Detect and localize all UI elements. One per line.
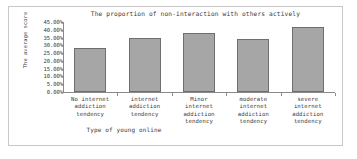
y-axis-tick-labels: 45.00%40.00%35.00%30.00%25.00%20.00%15.0… [31, 19, 63, 89]
x-axis-category-line: Minor [172, 96, 226, 103]
y-axis-tick-label: 10.00% [31, 73, 63, 79]
x-axis-category-line: moderate [226, 96, 280, 103]
x-axis-tick-mark [335, 93, 336, 96]
y-axis-title: The average score [22, 2, 28, 78]
bar [183, 33, 215, 92]
y-axis-tick-mark [61, 38, 64, 39]
x-axis-category-line: addiction [281, 111, 335, 118]
bar [237, 39, 269, 92]
x-axis-category-line: tendency [281, 118, 335, 125]
x-axis-line [63, 92, 335, 93]
chart-frame: The proportion of non-interaction with o… [8, 6, 343, 146]
x-axis-category-line: severe [281, 96, 335, 103]
x-axis-category-label: Minorinternetaddictiontendency [172, 96, 226, 126]
y-axis-line [63, 22, 64, 93]
x-axis-category-line: addiction [117, 103, 171, 110]
x-axis-category-labels: No internetaddictiontendencyinternetaddi… [63, 96, 335, 140]
y-axis-tick-label: 5.00% [31, 81, 63, 87]
y-axis-tick-label: 35.00% [31, 35, 63, 41]
x-axis-category-line: tendency [63, 111, 117, 118]
x-axis-category-line: tendency [172, 118, 226, 125]
x-axis-category-label: No internetaddictiontendency [63, 96, 117, 118]
plot-area [63, 22, 335, 93]
bar [292, 27, 324, 92]
x-axis-category-line: tendency [117, 111, 171, 118]
x-axis-category-label: moderateinternetaddictiontendency [226, 96, 280, 126]
y-axis-tick-label: 0.00% [31, 89, 63, 95]
x-axis-category-label: internetaddictiontendency [117, 96, 171, 118]
y-axis-tick-mark [61, 92, 64, 93]
y-axis-tick-mark [61, 53, 64, 54]
x-axis-category-line: internet [117, 96, 171, 103]
y-axis-tick-label: 30.00% [31, 42, 63, 48]
x-axis-category-line: addiction [172, 111, 226, 118]
bar [74, 48, 106, 92]
y-axis-tick-label: 40.00% [31, 27, 63, 33]
x-axis-category-line: tendency [226, 118, 280, 125]
bar [129, 38, 161, 92]
y-axis-tick-mark [61, 69, 64, 70]
y-axis-tick-mark [61, 84, 64, 85]
x-axis-category-line: addiction [226, 111, 280, 118]
y-axis-tick-label: 25.00% [31, 50, 63, 56]
x-axis-category-line: internet [281, 103, 335, 110]
x-axis-category-label: severeinternetaddictiontendency [281, 96, 335, 126]
x-axis-title: Type of young online [59, 126, 189, 133]
y-axis-tick-label: 15.00% [31, 66, 63, 72]
y-axis-tick-label: 45.00% [31, 19, 63, 25]
y-axis-tick-mark [61, 61, 64, 62]
x-axis-category-line: internet [172, 103, 226, 110]
chart-title: The proportion of non-interaction with o… [53, 10, 338, 17]
y-axis-tick-mark [61, 45, 64, 46]
y-axis-tick-mark [61, 30, 64, 31]
y-axis-tick-label: 20.00% [31, 58, 63, 64]
x-axis-category-line: internet [226, 103, 280, 110]
y-axis-tick-mark [61, 76, 64, 77]
x-axis-category-line: No internet [63, 96, 117, 103]
y-axis-tick-mark [61, 22, 64, 23]
x-axis-category-line: addiction [63, 103, 117, 110]
